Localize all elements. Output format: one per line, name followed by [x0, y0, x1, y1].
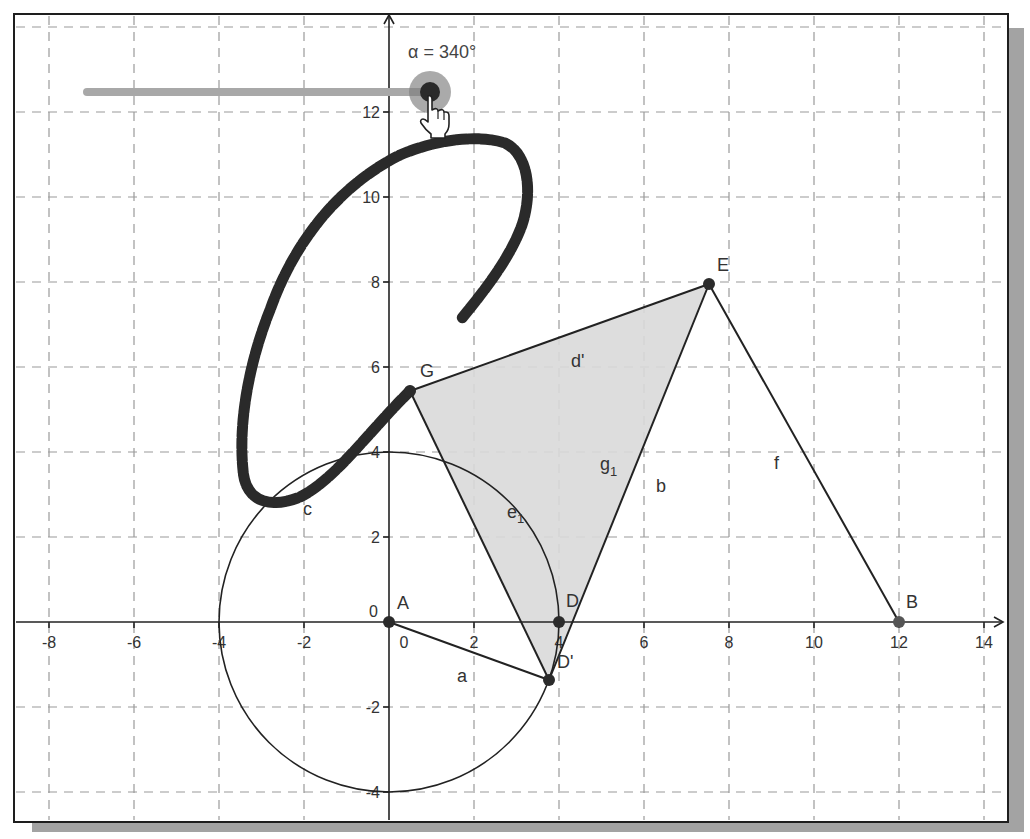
svg-text:10: 10 [362, 189, 380, 206]
svg-text:0: 0 [400, 634, 409, 651]
point-G[interactable] [404, 385, 416, 397]
label-d-prime: d' [571, 351, 584, 371]
svg-text:2: 2 [371, 529, 380, 546]
label-D: D [566, 591, 579, 611]
svg-text:-4: -4 [366, 784, 380, 801]
point-E[interactable] [703, 278, 715, 290]
svg-text:2: 2 [470, 634, 479, 651]
label-A: A [397, 593, 409, 613]
svg-text:12: 12 [362, 104, 380, 121]
svg-text:8: 8 [725, 634, 734, 651]
label-G: G [420, 361, 434, 381]
svg-text:-8: -8 [42, 634, 56, 651]
point-D[interactable] [553, 616, 565, 628]
svg-text:14: 14 [975, 634, 993, 651]
label-B: B [906, 592, 918, 612]
label-b: b [656, 476, 666, 496]
svg-text:8: 8 [371, 274, 380, 291]
svg-text:6: 6 [371, 359, 380, 376]
label-D-prime: D' [557, 652, 573, 672]
label-c: c [303, 499, 312, 519]
label-a: a [457, 666, 468, 686]
svg-text:-2: -2 [366, 699, 380, 716]
svg-text:10: 10 [805, 634, 823, 651]
point-B[interactable] [893, 616, 905, 628]
svg-text:-6: -6 [127, 634, 141, 651]
slider-label: α = 340° [408, 42, 476, 62]
graphics-view[interactable]: -8 -6 -4 -2 0 2 4 6 8 10 12 14 -4 -2 0 2… [0, 0, 1030, 839]
svg-text:6: 6 [640, 634, 649, 651]
point-D-prime[interactable] [543, 674, 555, 686]
svg-text:0: 0 [369, 603, 378, 620]
label-E: E [717, 255, 729, 275]
svg-text:12: 12 [890, 634, 908, 651]
svg-text:-2: -2 [297, 634, 311, 651]
point-A[interactable] [383, 616, 395, 628]
